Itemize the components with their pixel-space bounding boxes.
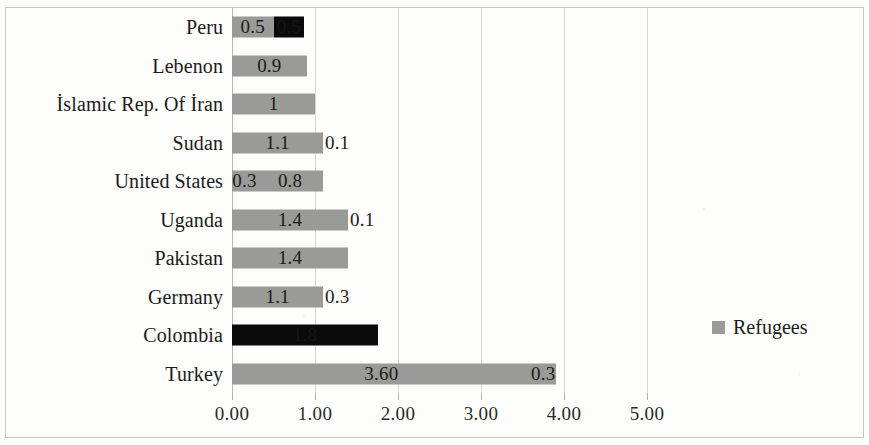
category-label: İslamic Rep. Of İran xyxy=(57,93,223,116)
tickmark-3.00 xyxy=(481,393,482,400)
x-tick-label: 3.00 xyxy=(464,403,498,425)
tickmark-0.00 xyxy=(232,393,233,400)
bar-value-label: 1.1 xyxy=(265,132,289,154)
bar-row: Germany1.10.3 xyxy=(232,278,648,317)
x-tick-label: 5.00 xyxy=(630,403,664,425)
x-axis-ticks: 0.001.002.003.004.005.00 xyxy=(232,393,648,401)
bar-row: Uganda1.40.1 xyxy=(232,201,648,240)
bar-row: United States0.30.8 xyxy=(232,162,648,201)
category-label: United States xyxy=(114,170,223,193)
tickmark-5.00 xyxy=(647,393,648,400)
bar-value-label: 0.5 xyxy=(277,16,301,38)
bar-value-label: 1.8 xyxy=(293,324,317,346)
bar-row: Colombia1.8 xyxy=(232,316,648,355)
category-label: Germany xyxy=(148,285,223,308)
x-tick-label: 0.00 xyxy=(215,403,249,425)
bar-row: Pakistan1.4 xyxy=(232,239,648,278)
chart-legend: Refugees xyxy=(712,316,807,339)
bar-value-label: 0.3 xyxy=(325,286,349,308)
bar-value-label: 3.60 xyxy=(364,363,398,385)
legend-swatch-refugees xyxy=(712,321,725,334)
category-label: Turkey xyxy=(165,362,223,385)
bar-value-label: 0.3 xyxy=(232,170,256,192)
tickmark-2.00 xyxy=(398,393,399,400)
bar-value-label: 0.9 xyxy=(257,55,281,77)
plot-area: Peru0.50.5Lebenon0.9İslamic Rep. Of İran… xyxy=(232,8,648,393)
category-label: Pakistan xyxy=(154,247,223,270)
refugees-bar-chart: Peru0.50.5Lebenon0.9İslamic Rep. Of İran… xyxy=(0,0,869,445)
bar-row: Peru0.50.5 xyxy=(232,8,648,47)
category-label: Colombia xyxy=(143,324,223,347)
category-label: Peru xyxy=(186,16,223,39)
bar-value-label: 0.3 xyxy=(531,363,555,385)
category-label: Sudan xyxy=(173,131,224,154)
category-label: Lebenon xyxy=(152,54,223,77)
bar-row: Turkey3.600.3 xyxy=(232,355,648,394)
bar-value-label: 0.5 xyxy=(241,16,265,38)
category-label: Uganda xyxy=(160,208,223,231)
bar-value-label: 1.4 xyxy=(278,247,302,269)
x-tick-label: 1.00 xyxy=(298,403,332,425)
x-tick-label: 4.00 xyxy=(547,403,581,425)
bar-value-label: 1.1 xyxy=(265,286,289,308)
bar-value-label: 0.1 xyxy=(325,132,349,154)
bar-row: Lebenon0.9 xyxy=(232,47,648,86)
x-tick-label: 2.00 xyxy=(381,403,415,425)
tickmark-4.00 xyxy=(564,393,565,400)
legend-label-refugees: Refugees xyxy=(733,316,807,339)
bar-row: Sudan1.10.1 xyxy=(232,124,648,163)
tickmark-1.00 xyxy=(315,393,316,400)
bar-value-label: 0.1 xyxy=(350,209,374,231)
bar-row: İslamic Rep. Of İran1 xyxy=(232,85,648,124)
bar-value-label: 1 xyxy=(269,93,279,115)
bar-value-label: 1.4 xyxy=(278,209,302,231)
bar-value-label: 0.8 xyxy=(278,170,302,192)
